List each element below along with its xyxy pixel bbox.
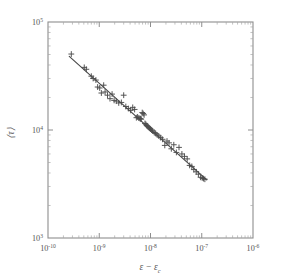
y-axis-title-group: ⟨τ⟩ <box>6 127 16 138</box>
x-tick-label: 10-6 <box>247 243 260 253</box>
plot-canvas: 10-1010-910-810-710-6 105104103 ε − εc ⟨… <box>0 0 283 280</box>
data-point <box>201 176 207 182</box>
y-tick-label: 103 <box>32 233 43 243</box>
scatter-plot-figure: 10-1010-910-810-710-6 105104103 ε − εc ⟨… <box>0 0 283 280</box>
y-tick-label: 104 <box>32 125 43 135</box>
x-axis-title-group: ε − εc <box>139 262 160 274</box>
y-axis-ticks <box>48 27 253 206</box>
y-axis-title: ⟨τ⟩ <box>6 127 16 138</box>
x-axis-tick-labels: 10-1010-910-810-710-6 <box>40 243 259 253</box>
x-tick-label: 10-9 <box>93 243 106 253</box>
data-point <box>101 82 107 88</box>
x-axis-title: ε − εc <box>139 262 160 274</box>
x-tick-label: 10-8 <box>144 243 157 253</box>
x-tick-label: 10-7 <box>195 243 208 253</box>
data-point <box>176 145 182 151</box>
data-point <box>140 111 146 117</box>
data-point <box>121 92 127 98</box>
y-tick-label: 105 <box>32 17 43 27</box>
y-axis-tick-labels: 105104103 <box>32 17 43 243</box>
x-tick-label: 10-10 <box>40 243 56 253</box>
data-point <box>98 90 104 96</box>
x-axis-ticks <box>63 22 250 238</box>
